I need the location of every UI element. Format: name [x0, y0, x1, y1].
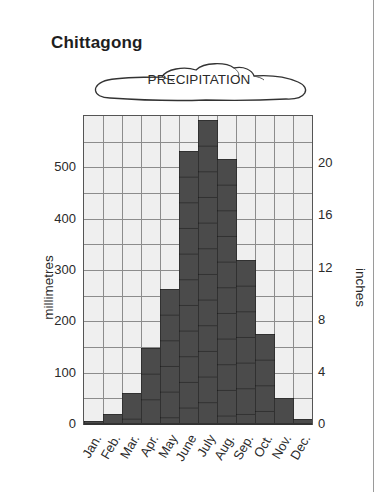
- y-tick-label-inches: 12: [318, 261, 332, 275]
- y-tick-label-inches: 4: [318, 365, 325, 379]
- y-tick-label-mm: 100: [36, 366, 76, 380]
- y-tick-label-inches: 8: [318, 313, 325, 327]
- x-axis-line: [84, 423, 312, 425]
- y-tick-label-mm: 500: [36, 160, 76, 174]
- plot-frame: [83, 115, 313, 425]
- page-divider-line: [373, 0, 374, 492]
- y-tick-label-mm: 400: [36, 212, 76, 226]
- chart-title: Chittagong: [51, 33, 143, 53]
- y-tick-label-mm: 0: [36, 417, 76, 431]
- banner-label: PRECIPITATION: [88, 72, 310, 87]
- y-tick-label-inches: 20: [318, 156, 332, 170]
- y-tick-label-inches: 16: [318, 208, 332, 222]
- y-axis-title-inches: inches: [353, 248, 368, 328]
- y-tick-label-inches: 0: [318, 417, 325, 431]
- y-axis-title-millimetres: millimetres: [41, 238, 56, 338]
